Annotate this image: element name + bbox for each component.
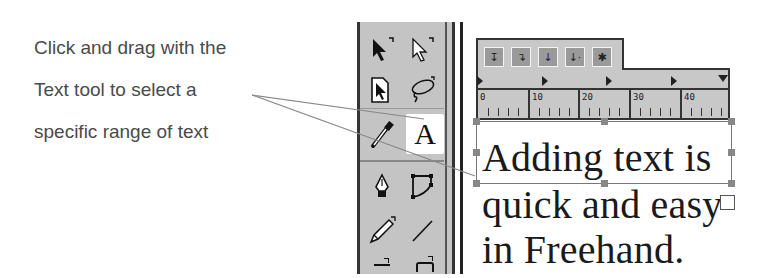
- callout-lines: [0, 0, 761, 278]
